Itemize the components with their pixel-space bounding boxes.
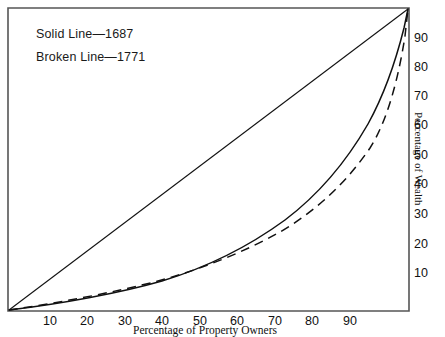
- legend-item-broken: Broken Line—1771: [36, 51, 145, 64]
- y-tick-70: 70: [414, 90, 428, 103]
- x-axis-title: Percentage of Property Owners: [0, 325, 410, 337]
- legend-item-solid: Solid Line—1687: [36, 28, 145, 41]
- y-axis-title: Percentage of Wealth: [413, 112, 424, 206]
- y-tick-30: 30: [414, 208, 428, 221]
- y-tick-20: 20: [414, 238, 428, 251]
- y-tick-10: 10: [414, 267, 428, 280]
- y-tick-80: 80: [414, 61, 428, 74]
- y-tick-90: 90: [414, 32, 428, 45]
- legend: Solid Line—1687 Broken Line—1771: [36, 28, 145, 63]
